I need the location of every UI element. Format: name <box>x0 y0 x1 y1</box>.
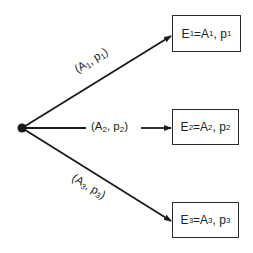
edge-3 <box>22 128 171 221</box>
outcome-box-3: E3=A3, p3 <box>172 202 239 238</box>
outcome-box-2: E2=A2, p2 <box>172 109 239 145</box>
edge-label-2: (A2, p2) <box>91 120 128 134</box>
root-node <box>18 124 27 133</box>
outcome-box-1: E1=A1, p1 <box>172 15 241 52</box>
